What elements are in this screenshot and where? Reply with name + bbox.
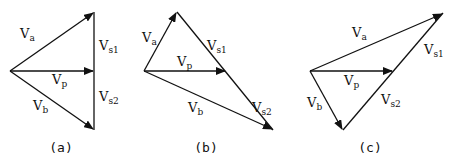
label-vs1: Vs1: [423, 42, 444, 59]
label-vb: Vb: [187, 100, 203, 117]
label-vs1: Vs1: [206, 38, 227, 55]
label-vp: Vp: [51, 72, 67, 89]
vector-va: [310, 14, 442, 71]
label-va: Va: [351, 25, 367, 42]
phasor-diagrams: Va Vs1 Vp Vs2 Vb (a) Va Vs1 Vp Vs2 Vb (b…: [0, 0, 459, 165]
label-va: Va: [19, 26, 35, 43]
vector-va: [10, 13, 93, 71]
label-vs2: Vs2: [380, 92, 401, 109]
caption-a: (a): [49, 140, 72, 155]
label-vp: Vp: [343, 73, 359, 90]
caption-c: (c): [358, 140, 381, 155]
diagram-a: Va Vs1 Vp Vs2 Vb (a): [10, 12, 119, 155]
label-vb: Vb: [306, 95, 322, 112]
label-vp: Vp: [176, 54, 192, 71]
label-vs2: Vs2: [98, 89, 119, 106]
label-vs2: Vs2: [251, 100, 272, 117]
caption-b: (b): [194, 140, 217, 155]
label-va: Va: [141, 30, 157, 47]
diagram-b: Va Vs1 Vp Vs2 Vb (b): [141, 12, 273, 155]
label-vb: Vb: [32, 98, 48, 115]
label-vs1: Vs1: [98, 38, 119, 55]
diagram-c: Va Vs1 Vp Vs2 Vb (c): [306, 13, 444, 155]
